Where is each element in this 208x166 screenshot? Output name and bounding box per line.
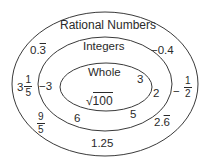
- numerator: 9: [37, 112, 45, 124]
- member-sqrt-100: √100: [86, 95, 113, 107]
- denominator: 5: [25, 87, 31, 98]
- member-2: 2: [153, 88, 159, 100]
- member-3: 3: [137, 74, 143, 86]
- fraction: 1 5: [24, 75, 32, 98]
- member-neg-3: −3: [39, 81, 52, 93]
- whole-label: Whole: [88, 67, 121, 79]
- member-5: 5: [130, 109, 136, 121]
- denominator: 2: [185, 88, 191, 99]
- decimal-part: 2.: [154, 116, 164, 128]
- sqrt-radicand: 100: [93, 92, 113, 108]
- repeating-digit: 6: [164, 116, 170, 128]
- whole-part: 3: [17, 81, 23, 93]
- sqrt-icon: √: [86, 94, 93, 108]
- repeating-digit: 3: [40, 44, 46, 56]
- numerator: 1: [24, 75, 32, 87]
- numerator: 1: [184, 76, 192, 88]
- denominator: 5: [38, 124, 44, 135]
- member-0-3-repeating: 0.3: [30, 45, 46, 57]
- member-3-1-5: 3 1 5: [17, 75, 32, 98]
- member-neg-1-2: 1 2: [184, 76, 192, 99]
- integers-label: Integers: [83, 41, 125, 53]
- member-neg-0-4: −0.4: [151, 45, 174, 57]
- member-6: 6: [74, 113, 80, 125]
- member-2-6-repeating: 2.6: [154, 117, 170, 129]
- member-1-25: 1.25: [91, 138, 113, 150]
- neg-half-sign: −: [173, 86, 180, 98]
- member-9-5: 9 5: [37, 112, 45, 135]
- rational-numbers-label: Rational Numbers: [60, 19, 156, 31]
- decimal-part: 0.: [30, 44, 40, 56]
